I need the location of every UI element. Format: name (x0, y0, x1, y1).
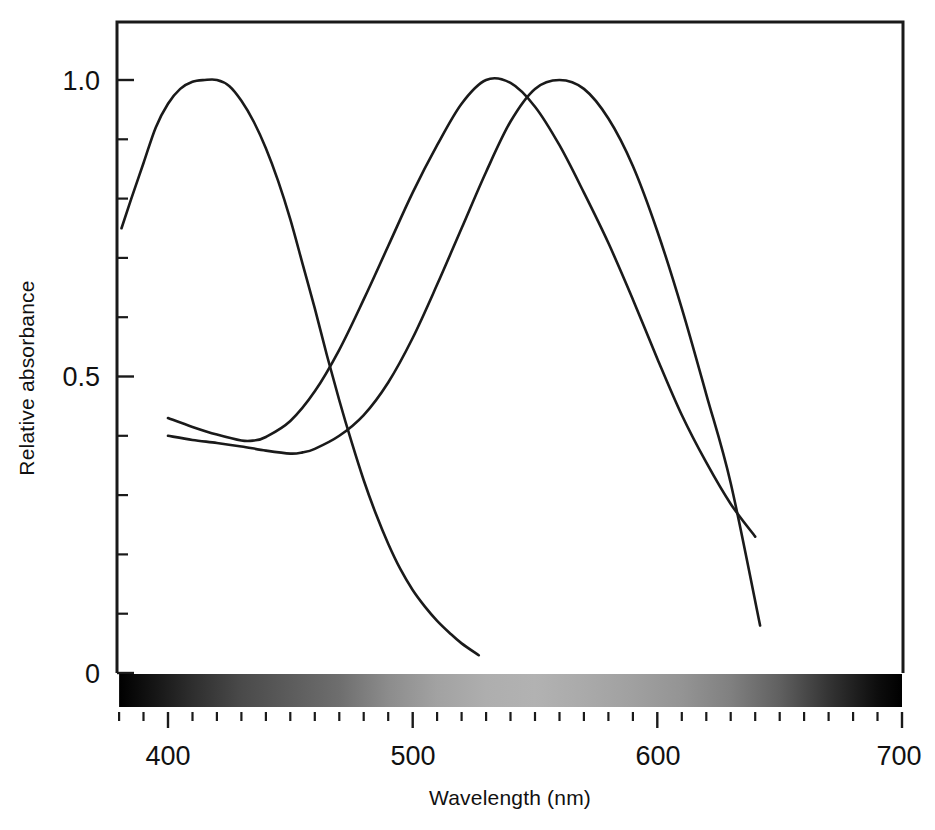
y-axis-tick-marks (117, 80, 134, 673)
x-tick-label-600: 600 (635, 741, 680, 771)
absorbance-curve-2 (168, 78, 755, 536)
visible-spectrum-strip (119, 674, 902, 707)
y-tick-label-2: 0.5 (62, 362, 100, 392)
plot-frame (117, 22, 903, 673)
x-tick-label-500: 500 (390, 741, 435, 771)
x-axis-title: Wavelength (nm) (429, 786, 591, 809)
y-tick-label-3: 0 (85, 659, 100, 689)
y-axis-title: Relative absorbance (15, 280, 38, 475)
x-axis-tick-labels: 400 500 600 700 (145, 741, 921, 771)
y-axis-tick-labels: 1.0 0.5 0 (62, 66, 100, 689)
x-axis-tick-marks (119, 712, 902, 728)
spectral-absorbance-figure: 1.0 0.5 0 400 500 600 700 Wavelength (nm… (0, 0, 935, 830)
chart-canvas: 1.0 0.5 0 400 500 600 700 Wavelength (nm… (0, 0, 935, 830)
x-tick-label-400: 400 (145, 741, 190, 771)
x-tick-label-700: 700 (876, 741, 921, 771)
y-tick-label-1: 1.0 (62, 66, 100, 96)
absorbance-curve-3 (168, 80, 760, 626)
absorbance-curves (122, 78, 761, 655)
